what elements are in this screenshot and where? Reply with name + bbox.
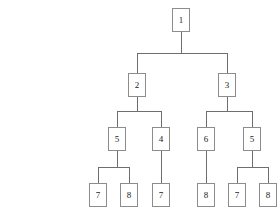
tree-node: 8 bbox=[197, 183, 215, 207]
tree-edges-layer bbox=[0, 0, 279, 212]
tree-node: 6 bbox=[197, 127, 215, 151]
tree-node-label: 8 bbox=[266, 190, 271, 199]
tree-node: 3 bbox=[218, 73, 236, 97]
tree-node: 7 bbox=[152, 183, 170, 207]
tree-node-label: 7 bbox=[159, 190, 164, 199]
tree-node-label: 7 bbox=[235, 190, 240, 199]
tree-node-label: 6 bbox=[204, 134, 209, 143]
tree-node: 5 bbox=[243, 127, 261, 151]
tree-node-label: 8 bbox=[204, 190, 209, 199]
tree-node: 1 bbox=[172, 8, 190, 32]
tree-node: 7 bbox=[89, 183, 107, 207]
tree-node-label: 2 bbox=[135, 80, 140, 89]
tree-node: 4 bbox=[152, 127, 170, 151]
tree-node-label: 1 bbox=[179, 15, 184, 24]
tree-node-label: 4 bbox=[159, 134, 164, 143]
tree-node: 8 bbox=[259, 183, 277, 207]
tree-node: 8 bbox=[120, 183, 138, 207]
tree-node-label: 3 bbox=[225, 80, 230, 89]
tree-node: 2 bbox=[128, 73, 146, 97]
tree-node-label: 5 bbox=[115, 134, 120, 143]
tree-diagram: 1235465787878 bbox=[0, 0, 279, 212]
tree-node: 7 bbox=[228, 183, 246, 207]
tree-node-label: 5 bbox=[250, 134, 255, 143]
tree-node-label: 8 bbox=[127, 190, 132, 199]
tree-node-label: 7 bbox=[96, 190, 101, 199]
tree-node: 5 bbox=[108, 127, 126, 151]
